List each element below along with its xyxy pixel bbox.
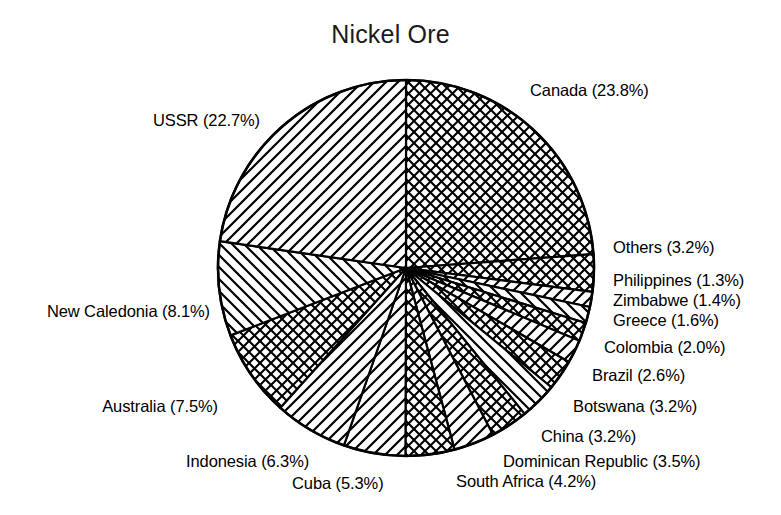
slice-label-brazil: Brazil (2.6%) (592, 367, 685, 384)
slice-label-canada: Canada (23.8%) (530, 82, 649, 99)
slice-label-australia: Australia (7.5%) (0, 398, 218, 415)
slice-label-greece: Greece (1.6%) (613, 312, 719, 329)
pie-slice[interactable]: USSR (22.7%) (220, 80, 406, 268)
pie-slice-group: Canada (23.8%)Others (3.2%)Philippines (… (218, 80, 594, 456)
slice-label-zimbabwe: Zimbabwe (1.4%) (613, 292, 741, 309)
slice-label-cuba: Cuba (5.3%) (292, 475, 384, 492)
pie-slice[interactable]: Canada (23.8%) (406, 80, 593, 268)
slice-label-dominican-republic: Dominican Republic (3.5%) (503, 453, 700, 470)
chart-page: Nickel Ore Canada (23.8%)Others (3.2%)Ph… (0, 0, 781, 515)
slice-label-indonesia: Indonesia (6.3%) (186, 453, 309, 470)
slice-label-philippines: Philippines (1.3%) (613, 272, 744, 289)
slice-label-new-caledonia: New Caledonia (8.1%) (0, 303, 210, 320)
slice-label-colombia: Colombia (2.0%) (604, 339, 725, 356)
slice-label-others: Others (3.2%) (613, 239, 714, 256)
pie-chart: Canada (23.8%)Others (3.2%)Philippines (… (0, 0, 781, 515)
slice-label-south-africa: South Africa (4.2%) (456, 473, 596, 490)
slice-label-ussr: USSR (22.7%) (0, 112, 260, 129)
slice-label-botswana: Botswana (3.2%) (573, 398, 697, 415)
slice-label-china: China (3.2%) (541, 428, 636, 445)
